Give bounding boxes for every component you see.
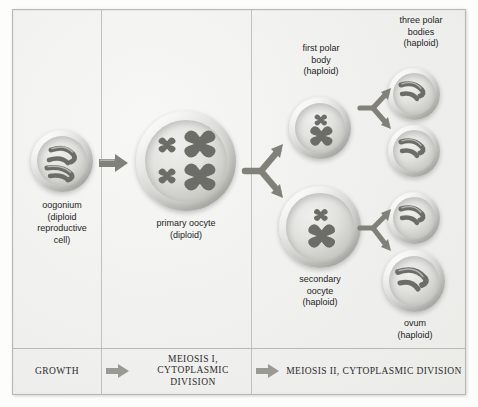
cell-polar-body-2 xyxy=(388,125,440,177)
caption-arrow-1 xyxy=(105,363,131,379)
figure-canvas: oogonium (diploid reproductive cell) xyxy=(0,0,478,407)
polar-body-1-chromosomes xyxy=(388,68,440,120)
caption-arrow-2 xyxy=(255,363,281,379)
label-oogonium: oogonium (diploid reproductive cell) xyxy=(17,200,107,246)
arrow-meiosis-2-split-lower xyxy=(357,198,395,262)
oogonium-chromosomes xyxy=(31,130,93,192)
label-ovum: ovum (haploid) xyxy=(369,318,461,341)
secondary-oocyte-chromosomes xyxy=(279,186,361,268)
first-polar-body-chromosomes xyxy=(289,97,351,159)
caption-meiosis-2: MEIOSIS II, CYTOPLASMIC DIVISION xyxy=(285,366,463,378)
caption-growth: GROWTH xyxy=(13,366,101,378)
arrow-meiosis-2-split-upper xyxy=(357,80,395,136)
cell-polar-body-3 xyxy=(388,192,440,244)
diagram-frame: oogonium (diploid reproductive cell) xyxy=(12,9,466,395)
arrow-growth xyxy=(97,152,131,174)
caption-strip: GROWTH MEIOSIS I, CYTOPLASMIC DIVISION M… xyxy=(13,349,465,394)
cell-secondary-oocyte xyxy=(279,186,361,268)
cell-primary-oocyte xyxy=(136,111,236,211)
label-first-polar-body: first polar body (haploid) xyxy=(269,43,373,78)
label-three-polar-bodies: three polar bodies (haploid) xyxy=(375,15,467,50)
cell-first-polar-body xyxy=(289,97,351,159)
polar-body-2-chromosomes xyxy=(388,125,440,177)
cell-polar-body-1 xyxy=(388,68,440,120)
label-secondary-oocyte: secondary oocyte (haploid) xyxy=(268,274,372,309)
label-primary-oocyte: primary oocyte (diploid) xyxy=(126,218,246,241)
polar-body-3-chromosomes xyxy=(388,192,440,244)
caption-meiosis-1: MEIOSIS I, CYTOPLASMIC DIVISION xyxy=(135,354,251,390)
primary-oocyte-chromosomes xyxy=(136,111,236,211)
arrow-meiosis-1-split xyxy=(241,135,289,207)
cell-oogonium xyxy=(31,130,93,192)
